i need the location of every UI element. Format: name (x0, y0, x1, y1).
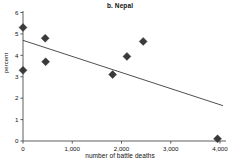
trend-line (23, 40, 223, 105)
y-axis-tick-label: 2 (15, 94, 19, 101)
x-axis: 01,0002,0003,0004,000 (21, 141, 228, 152)
x-axis-tick-label: 2,000 (114, 145, 130, 152)
x-axis-tick-label: 1,000 (65, 145, 81, 152)
y-axis-tick-label: 0 (15, 137, 19, 144)
y-axis-tick-label: 5 (15, 30, 19, 37)
y-axis-tick-label: 1 (15, 116, 19, 123)
y-axis-tick-label: 4 (15, 52, 19, 59)
data-points (19, 23, 222, 142)
trend-line-path (23, 40, 223, 105)
x-axis-tick-label: 3,000 (163, 145, 179, 152)
y-axis-tick-label: 3 (15, 73, 19, 80)
plot-area: 0123456 01,0002,0003,0004,000 (0, 0, 240, 163)
data-point-marker (19, 66, 27, 74)
data-point-marker (109, 71, 117, 79)
data-point-marker (139, 37, 147, 45)
y-axis-tick-label: 6 (15, 9, 19, 16)
data-point-marker (41, 34, 49, 42)
data-point-marker (19, 23, 27, 31)
x-axis-tick-label: 0 (21, 145, 25, 152)
data-point-marker (42, 58, 50, 66)
x-axis-tick-label: 4,000 (212, 145, 228, 152)
chart-container: b. Nepal percent number of battle deaths… (0, 0, 240, 163)
data-point-marker (123, 52, 131, 60)
